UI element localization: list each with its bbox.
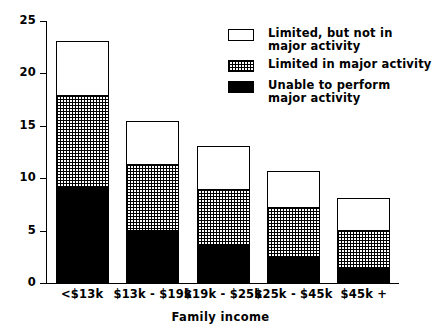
y-axis-tick-label: 10: [2, 172, 36, 184]
x-axis-tick-label: $45k +: [304, 289, 424, 301]
legend-item: Limited in major activity: [228, 58, 438, 74]
black-swatch: [228, 81, 254, 93]
y-axis-tick-label: 15: [2, 120, 36, 132]
legend-item: Limited, but not in major activity: [228, 27, 438, 53]
x-axis-title: Family income: [0, 310, 441, 324]
y-axis-tick-mark: [40, 21, 47, 22]
y-axis-tick-label: 0: [2, 277, 36, 289]
white-swatch: [228, 29, 254, 41]
y-axis-tick-label: 20: [2, 67, 36, 79]
bar-segment-unable: [126, 230, 179, 283]
bar-1: [56, 21, 109, 283]
bar-segment-unable: [267, 256, 320, 283]
bar-segment-limited_not_major: [197, 146, 250, 190]
y-axis-tick-mark: [40, 231, 47, 232]
legend-item-label: Limited, but not in major activity: [268, 27, 438, 53]
y-axis-tick-label: 25: [2, 15, 36, 27]
bar-2: [126, 21, 179, 283]
bar-segment-limited_not_major: [56, 41, 109, 96]
bar-segment-limited_major: [126, 164, 179, 231]
x-axis-line: [46, 283, 399, 284]
y-axis-tick-mark: [40, 126, 47, 127]
legend-item-label: Unable to perform major activity: [268, 79, 438, 105]
y-axis-tick-label: 5: [2, 225, 36, 237]
bar-segment-limited_not_major: [337, 198, 390, 230]
chart-legend: Limited, but not in major activityLimite…: [228, 27, 438, 110]
bar-segment-limited_major: [337, 230, 390, 270]
bar-segment-unable: [197, 245, 250, 283]
bar-segment-limited_major: [56, 95, 109, 186]
y-axis-tick-mark: [40, 73, 47, 74]
stacked-bar-chart: 2520151050 Percent of population <$13k$1…: [0, 0, 441, 332]
bar-segment-limited_major: [267, 207, 320, 257]
bar-segment-unable: [56, 186, 109, 283]
legend-item: Unable to perform major activity: [228, 79, 438, 105]
hatched-swatch: [228, 60, 254, 72]
bar-segment-unable: [337, 268, 390, 283]
legend-item-label: Limited in major activity: [268, 58, 438, 71]
bar-segment-limited_not_major: [267, 171, 320, 208]
y-axis-tick-mark: [40, 178, 47, 179]
y-axis-tick-mark: [40, 283, 47, 284]
bar-segment-limited_not_major: [126, 121, 179, 165]
bar-segment-limited_major: [197, 189, 250, 247]
